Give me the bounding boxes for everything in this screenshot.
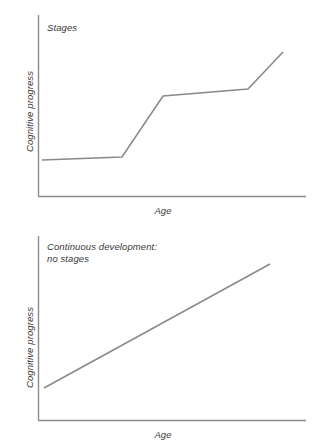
panel-title-continuous: Continuous development: no stages [47,241,157,264]
stages-data-line [42,52,283,160]
chart-panel-continuous: Continuous development: no stages Cognit… [0,224,326,448]
continuous-data-line [44,264,270,388]
chart-panel-stages: Stages Cognitive progress Age [0,0,326,224]
panel-title-stages: Stages [47,22,77,34]
stages-chart-graphic [0,0,326,224]
x-axis-label: Age [0,205,326,216]
y-axis-label: Cognitive progress [24,307,35,388]
x-axis-label: Age [0,429,326,440]
y-axis-label: Cognitive progress [24,71,35,152]
